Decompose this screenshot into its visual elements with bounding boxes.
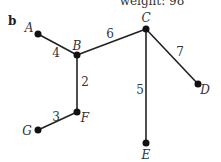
edge-weight-BC: 6 [106, 27, 114, 41]
node-E [143, 140, 150, 147]
edge-weight-BF: 2 [81, 75, 89, 89]
caption: weight: 98 [120, 0, 185, 8]
edge-CD [146, 29, 198, 84]
nodes: ABCDEFG [22, 11, 210, 162]
node-label-A: A [24, 21, 34, 35]
node-label-E: E [141, 148, 151, 162]
edges: 462753 [38, 27, 198, 143]
edge-weight-AB: 4 [52, 46, 60, 60]
node-C [143, 26, 150, 33]
node-G [35, 127, 42, 134]
tree-diagram: weight: 98 b 462753 ABCDEFG [0, 0, 221, 162]
edge-weight-FG: 3 [52, 110, 60, 124]
node-F [74, 109, 81, 116]
node-A [35, 31, 42, 38]
panel-label: b [8, 14, 16, 28]
node-label-G: G [22, 124, 32, 138]
node-label-D: D [199, 83, 210, 97]
edge-weight-CE: 5 [136, 83, 144, 97]
node-label-F: F [80, 111, 90, 125]
edge-weight-CD: 7 [176, 45, 184, 59]
node-label-C: C [141, 11, 150, 25]
node-label-B: B [72, 39, 82, 53]
